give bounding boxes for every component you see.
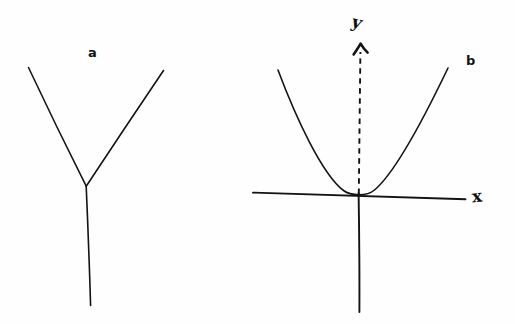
panel-label-b: b (466, 54, 475, 67)
panel-a-stem (86, 186, 90, 305)
x-axis-label: x (471, 188, 483, 206)
panel-a-drawing (29, 68, 164, 306)
figure-drawing (0, 0, 515, 324)
panel-label-a: a (88, 46, 97, 59)
figure-canvas: a b x y (0, 0, 515, 324)
y-axis-dashed-segment (359, 52, 361, 194)
y-axis-solid-segment (359, 193, 360, 312)
panel-a-right-arm (86, 71, 163, 187)
panel-b-drawing (253, 44, 466, 312)
panel-a-left-arm (29, 68, 87, 187)
parabola-curve (278, 68, 448, 195)
